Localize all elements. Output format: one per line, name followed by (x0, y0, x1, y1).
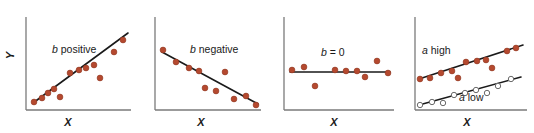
x-axis-label-panel2: X (189, 117, 213, 128)
panel-b-zero: b = 0 X (266, 0, 399, 133)
panel-b-positive: b positive Y X (0, 0, 133, 133)
x-axis-label-panel3: X (322, 117, 346, 128)
panel-b-negative-plot (133, 0, 266, 133)
panel-b-zero-plot (266, 0, 399, 133)
panel-b-negative: b negative X (133, 0, 266, 133)
panel-intercepts-plot (399, 0, 534, 133)
panel-intercepts: a high a low X (399, 0, 534, 133)
annotation-b-zero: b = 0 (321, 47, 345, 58)
annotation-b-positive-text: positive (58, 43, 97, 55)
annotation-b-negative: b negative (190, 44, 238, 55)
annotation-a-low: a low (459, 92, 484, 103)
annotation-a-high: a high (422, 45, 451, 56)
annotation-b-negative-text: negative (196, 43, 239, 55)
panel-b-positive-plot (0, 0, 133, 133)
data-points-b-zero (289, 58, 391, 89)
x-axis-label-panel1: X (56, 117, 80, 128)
y-axis-label: Y (5, 45, 16, 67)
annotation-b-zero-text: = 0 (327, 46, 345, 58)
annotation-a-low-text: low (465, 91, 484, 103)
annotation-b-positive: b positive (52, 44, 96, 55)
regression-slope-intercept-figure: b positive Y X b negative X (0, 0, 534, 133)
x-axis-label-panel4: X (455, 117, 479, 128)
annotation-a-high-text: high (428, 44, 451, 56)
